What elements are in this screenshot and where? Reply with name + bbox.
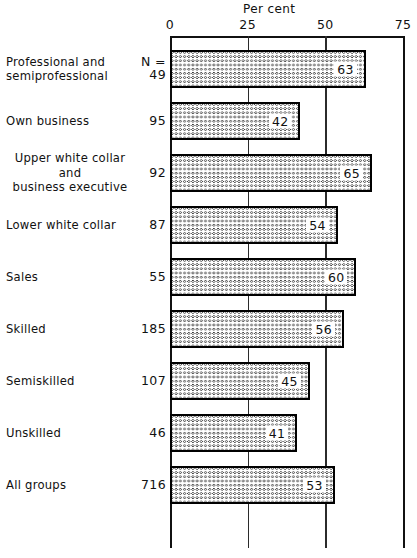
bar-value-label: 54 <box>306 218 329 233</box>
category-label-line: Unskilled <box>6 426 134 441</box>
gridline-75 <box>403 36 405 548</box>
category-label-line: semiprofessional <box>6 69 134 84</box>
category-label: Sales <box>6 270 134 285</box>
bar: 63 <box>170 50 366 88</box>
category-label: Upper white collarandbusiness executive <box>6 151 134 195</box>
x-axis-line <box>170 36 403 38</box>
x-tick-label-50: 50 <box>317 17 334 32</box>
bar: 56 <box>170 310 344 348</box>
bar-value-label: 42 <box>269 114 292 129</box>
category-label-line: Semiskilled <box>6 374 134 389</box>
category-label: Unskilled <box>6 426 134 441</box>
bar: 45 <box>170 362 310 400</box>
n-value: 185 <box>118 322 166 336</box>
bar-value-label: 56 <box>312 322 335 337</box>
category-label-line: and <box>6 166 134 181</box>
x-axis-title: Per cent <box>243 2 295 16</box>
n-value: 87 <box>118 218 166 232</box>
category-label-line: Lower white collar <box>6 218 134 233</box>
plot-area: 634265546056454153 <box>170 36 403 548</box>
bar: 42 <box>170 102 300 140</box>
n-value: 107 <box>118 374 166 388</box>
bar-value-label: 41 <box>266 426 289 441</box>
category-label: Skilled <box>6 322 134 337</box>
category-label: Semiskilled <box>6 374 134 389</box>
bar-value-label: 60 <box>325 270 348 285</box>
category-label: All groups <box>6 478 134 493</box>
x-tick-label-25: 25 <box>239 17 256 32</box>
n-value: 95 <box>118 114 166 128</box>
category-label-line: Own business <box>6 114 134 129</box>
bar: 54 <box>170 206 338 244</box>
bar-value-label: 45 <box>278 374 301 389</box>
bar: 65 <box>170 154 372 192</box>
category-label-line: Sales <box>6 270 134 285</box>
bar-value-label: 63 <box>334 62 357 77</box>
category-label-line: Upper white collar <box>6 151 134 166</box>
n-value: 55 <box>118 270 166 284</box>
bar-value-label: 65 <box>340 166 363 181</box>
bar: 53 <box>170 466 335 504</box>
category-label-line: Professional and <box>6 55 134 70</box>
category-label-line: business executive <box>6 180 134 195</box>
bar-value-label: 53 <box>303 478 326 493</box>
x-tick-label-0: 0 <box>166 17 174 32</box>
category-label: Professional andsemiprofessional <box>6 55 134 84</box>
n-value: 716 <box>118 478 166 492</box>
n-value: 92 <box>118 166 166 180</box>
category-label-line: Skilled <box>6 322 134 337</box>
n-value: 49 <box>118 68 166 82</box>
n-value: 46 <box>118 426 166 440</box>
bar: 41 <box>170 414 297 452</box>
bar: 60 <box>170 258 356 296</box>
category-label: Own business <box>6 114 134 129</box>
category-label-line: All groups <box>6 478 134 493</box>
category-label: Lower white collar <box>6 218 134 233</box>
x-tick-label-75: 75 <box>395 17 412 32</box>
bar-chart: Per cent 0255075 634265546056454153 Prof… <box>0 0 417 558</box>
